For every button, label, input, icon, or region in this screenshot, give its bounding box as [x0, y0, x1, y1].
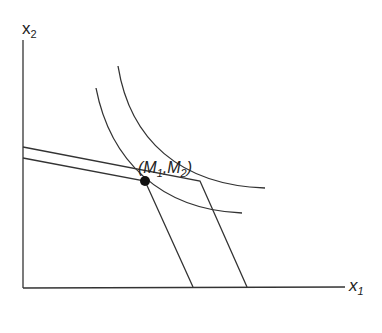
- point-label: (M1,M2): [138, 159, 192, 179]
- diagram: x2 x1 (M1,M2): [0, 0, 382, 333]
- budget-line-outer: [23, 147, 247, 287]
- x-axis: [23, 287, 345, 288]
- y-axis-label: x2: [22, 19, 37, 40]
- x-axis-label: x1: [349, 276, 364, 297]
- indifference-curve-lower: [96, 88, 242, 213]
